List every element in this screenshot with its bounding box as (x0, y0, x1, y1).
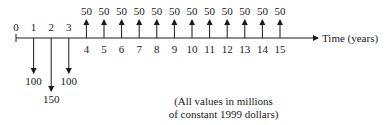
axis-label: Time (years) (322, 32, 378, 45)
period-label: 0 (13, 21, 19, 33)
inflow-value: 50 (239, 5, 251, 17)
inflow-value: 50 (134, 5, 146, 17)
period-label: 5 (101, 43, 107, 55)
inflow-value: 50 (275, 5, 287, 17)
units-note-line2: of constant 1999 dollars) (60, 108, 387, 121)
period-label: 7 (136, 43, 142, 55)
inflow-value: 50 (116, 5, 128, 17)
period-label: 12 (222, 43, 233, 55)
inflow-value: 50 (222, 5, 234, 17)
inflow-value: 50 (187, 5, 199, 17)
outflow-value: 100 (61, 75, 78, 87)
period-label: 13 (239, 43, 251, 55)
period-label: 3 (66, 21, 72, 33)
period-label: 8 (154, 43, 160, 55)
inflow-value: 50 (81, 5, 93, 17)
period-label: 14 (257, 43, 269, 55)
outflow-value: 100 (25, 75, 42, 87)
units-note: (All values in millions of constant 1999… (0, 95, 387, 121)
inflow-value: 50 (204, 5, 216, 17)
inflow-value: 50 (99, 5, 111, 17)
period-label: 1 (31, 21, 37, 33)
inflow-value: 50 (169, 5, 181, 17)
inflow-value: 50 (257, 5, 269, 17)
period-label: 6 (119, 43, 125, 55)
units-note-line1: (All values in millions (60, 95, 387, 108)
period-label: 10 (187, 43, 199, 55)
period-label: 15 (275, 43, 287, 55)
period-label: 9 (172, 43, 178, 55)
period-label: 4 (84, 43, 90, 55)
inflow-value: 50 (151, 5, 163, 17)
period-label: 2 (48, 21, 54, 33)
period-label: 11 (204, 43, 215, 55)
